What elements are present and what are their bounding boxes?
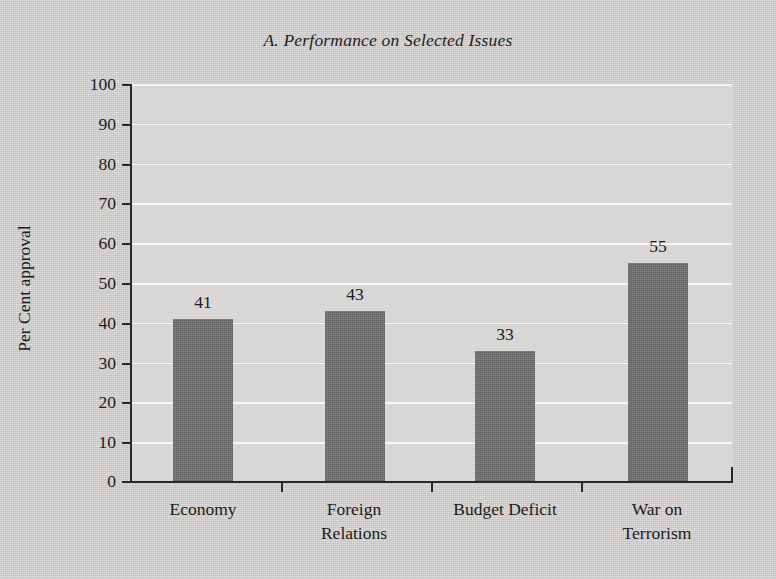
y-tick-label-80: 80 bbox=[56, 154, 116, 175]
bar-foreign-relations[interactable] bbox=[325, 311, 385, 482]
y-tick-label-40: 40 bbox=[56, 313, 116, 334]
y-tick-label-70: 70 bbox=[56, 193, 116, 214]
bar-value-label-economy: 41 bbox=[163, 292, 243, 313]
bar-value-label-war-on-terrorism: 55 bbox=[618, 236, 698, 257]
gridline-90 bbox=[131, 124, 732, 126]
x-category-label-budget-deficit: Budget Deficit bbox=[420, 497, 590, 521]
chart-title: A. Performance on Selected Issues bbox=[0, 30, 776, 51]
y-tick-label-0: 0 bbox=[56, 471, 116, 492]
y-tick-0 bbox=[122, 481, 131, 483]
y-tick-80 bbox=[122, 164, 131, 166]
y-tick-10 bbox=[122, 442, 131, 444]
y-tick-20 bbox=[122, 402, 131, 404]
x-category-line: Budget Deficit bbox=[420, 497, 590, 521]
x-tick-1 bbox=[281, 482, 283, 492]
y-tick-90 bbox=[122, 124, 131, 126]
y-tick-label-100: 100 bbox=[56, 74, 116, 95]
y-axis-title: Per Cent approval bbox=[14, 189, 35, 389]
y-tick-60 bbox=[122, 243, 131, 245]
y-tick-100 bbox=[122, 84, 131, 86]
x-category-line: Foreign bbox=[269, 497, 439, 521]
x-category-line: Economy bbox=[118, 497, 288, 521]
x-tick-3 bbox=[581, 482, 583, 492]
y-tick-label-50: 50 bbox=[56, 273, 116, 294]
x-category-label-foreign-relations: Foreign Relations bbox=[269, 497, 439, 545]
y-axis-tick-labels: 100 90 80 70 60 50 40 30 20 10 0 bbox=[53, 0, 116, 579]
figure-canvas: A. Performance on Selected Issues 41 43 … bbox=[0, 0, 776, 579]
bar-budget-deficit[interactable] bbox=[475, 351, 535, 482]
bar-economy[interactable] bbox=[173, 319, 233, 482]
gridline-80 bbox=[131, 164, 732, 166]
x-category-line: Terrorism bbox=[572, 521, 742, 545]
x-category-line: War on bbox=[572, 497, 742, 521]
x-category-line: Relations bbox=[269, 521, 439, 545]
plot-area: 41 43 33 55 bbox=[131, 84, 732, 482]
y-tick-40 bbox=[122, 323, 131, 325]
y-tick-50 bbox=[122, 283, 131, 285]
y-tick-label-10: 10 bbox=[56, 432, 116, 453]
bar-value-label-budget-deficit: 33 bbox=[465, 324, 545, 345]
y-tick-70 bbox=[122, 203, 131, 205]
y-tick-30 bbox=[122, 363, 131, 365]
x-tick-2 bbox=[431, 482, 433, 492]
y-tick-label-30: 30 bbox=[56, 353, 116, 374]
x-category-label-war-on-terrorism: War on Terrorism bbox=[572, 497, 742, 545]
bar-value-label-foreign-relations: 43 bbox=[315, 284, 395, 305]
gridline-100 bbox=[131, 84, 732, 86]
bar-war-on-terrorism[interactable] bbox=[628, 263, 688, 482]
y-tick-label-20: 20 bbox=[56, 392, 116, 413]
x-category-label-economy: Economy bbox=[118, 497, 288, 521]
y-tick-label-90: 90 bbox=[56, 114, 116, 135]
y-tick-label-60: 60 bbox=[56, 233, 116, 254]
x-axis-right-cap bbox=[731, 467, 733, 483]
gridline-70 bbox=[131, 203, 732, 205]
